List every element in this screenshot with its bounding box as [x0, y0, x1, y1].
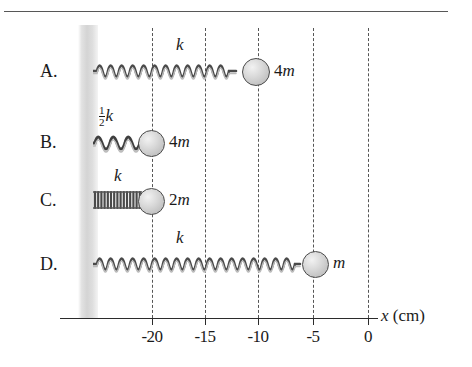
spring-k-b: k — [106, 106, 114, 126]
axis-unit: (cm) — [393, 306, 425, 325]
row-letter-a: A. — [40, 61, 58, 82]
fraction-one-half: 1 2 — [99, 105, 105, 128]
tick-zero — [368, 318, 369, 325]
top-rule — [4, 11, 448, 12]
mass-label-d: m — [333, 253, 345, 273]
spring-constant-label-b: 1 2 k — [99, 104, 113, 127]
mass-symbol-d: m — [333, 253, 345, 272]
mass-ball-d — [302, 251, 329, 278]
row-letter-b: B. — [40, 132, 57, 153]
mass-label-c: 2m — [169, 190, 190, 210]
row-letter-d: D. — [40, 254, 58, 275]
mass-symbol-c: m — [178, 190, 190, 209]
mass-ball-c — [138, 188, 165, 215]
fraction-denominator-b: 2 — [99, 116, 105, 128]
tick-minus-20 — [152, 318, 153, 325]
spring-constant-label-d: k — [176, 228, 184, 248]
tick-minus-5 — [313, 318, 314, 325]
spring-mass-figure: A. k 4m B. 1 2 k 4m C. k — [0, 0, 472, 367]
mass-number-b: 4 — [169, 132, 178, 151]
x-axis-label: x (cm) — [381, 306, 425, 326]
tick-label-minus-20: -20 — [127, 327, 177, 347]
tick-label-minus-5: -5 — [288, 327, 338, 347]
mass-ball-a — [242, 58, 270, 86]
axis-symbol: x — [381, 306, 389, 325]
tick-label-minus-15: -15 — [180, 327, 230, 347]
gridline-zero — [368, 28, 369, 318]
x-axis — [60, 318, 378, 319]
spring-d — [93, 250, 305, 278]
spring-a — [93, 57, 245, 85]
mass-label-a: 4m — [274, 61, 295, 81]
mass-number-c: 2 — [169, 190, 178, 209]
spring-constant-label-a: k — [176, 35, 184, 55]
mass-label-b: 4m — [169, 132, 190, 152]
row-letter-c: C. — [40, 190, 57, 211]
mass-symbol-b: m — [178, 132, 190, 151]
fraction-numerator-b: 1 — [99, 105, 105, 116]
tick-label-zero: 0 — [343, 327, 393, 347]
tick-minus-10 — [258, 318, 259, 325]
tick-label-minus-10: -10 — [233, 327, 283, 347]
spring-constant-label-c: k — [114, 166, 122, 186]
mass-ball-b — [138, 130, 165, 157]
tick-minus-15 — [205, 318, 206, 325]
mass-number-a: 4 — [274, 61, 283, 80]
mass-symbol-a: m — [283, 61, 295, 80]
